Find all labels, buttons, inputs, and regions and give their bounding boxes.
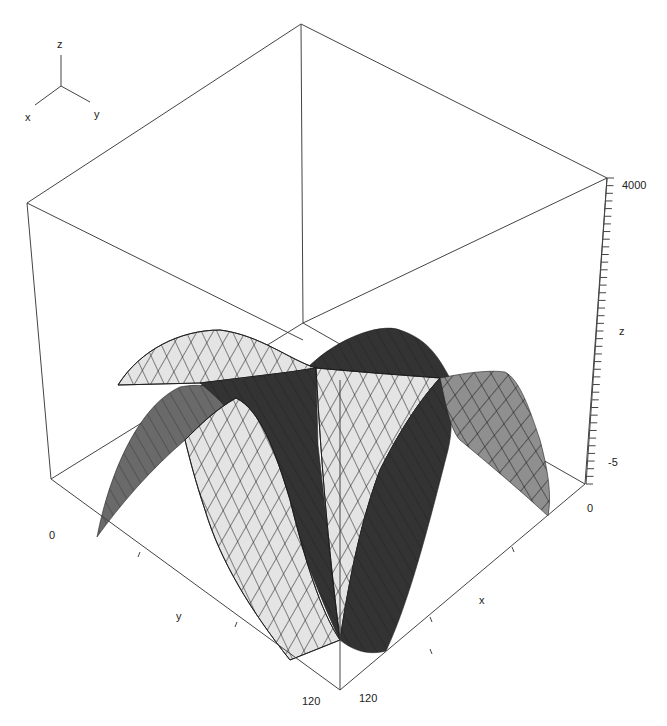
x-minor-tick xyxy=(430,617,432,622)
z-axis-ticks xyxy=(586,178,614,484)
gizmo-z-label: z xyxy=(57,38,63,50)
x-minor-tick xyxy=(512,547,514,552)
gizmo-x-label: x xyxy=(25,111,31,123)
z-axis-label: z xyxy=(619,325,625,337)
y-minor-tick xyxy=(138,552,140,557)
gizmo-y-axis-icon xyxy=(61,86,90,102)
x-axis-label: x xyxy=(479,594,485,606)
x-tick-start: 0 xyxy=(587,502,593,514)
y-minor-tick xyxy=(235,622,237,627)
z-tick-top: 4000 xyxy=(622,179,646,191)
z-axis: 4000 z -5 xyxy=(586,178,646,484)
orientation-gizmo: z x y xyxy=(25,38,100,123)
z-tick-bottom: -5 xyxy=(608,456,618,468)
x-minor-tick xyxy=(430,649,432,654)
y-axis-label: y xyxy=(176,610,182,622)
gizmo-x-axis-icon xyxy=(35,86,61,105)
x-tick-end: 120 xyxy=(359,692,377,704)
y-tick-start: 0 xyxy=(49,529,55,541)
surface xyxy=(97,328,550,660)
surface-plot: z x y xyxy=(0,0,667,726)
y-tick-end: 120 xyxy=(302,695,320,707)
gizmo-y-label: y xyxy=(94,108,100,120)
